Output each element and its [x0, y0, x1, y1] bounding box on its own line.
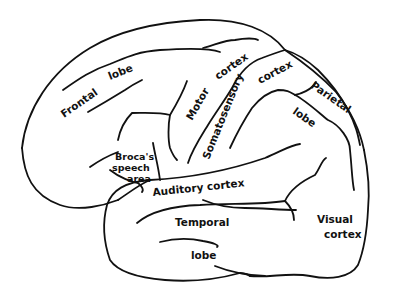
label-visual-cortex-1: Visual [317, 213, 353, 225]
postcentral-sulcus [230, 90, 295, 148]
label-temporal-lobe-1: Temporal [175, 216, 229, 228]
label-temporal-lobe-2: lobe [191, 249, 216, 261]
brain-diagram: Frontal lobe Motor cortex Somatosensory … [0, 0, 406, 297]
motor-cortex-top [203, 39, 258, 49]
sts-branch-upper [285, 158, 326, 201]
temporal-sulcus-3 [215, 266, 265, 276]
label-motor-cortex-1: Motor [183, 85, 211, 122]
label-brocas-area-2: speech [112, 162, 150, 173]
frontal-lobe-lower-edge [22, 148, 118, 208]
label-somatosensory-cortex-1: Somatosensory [200, 71, 245, 160]
label-frontal-lobe-1: Frontal [58, 86, 99, 120]
temporal-sulcus-2 [160, 239, 218, 247]
inferior-frontal-sulcus [118, 113, 170, 140]
precentral-sulcus [169, 81, 188, 160]
label-somatosensory-cortex-2: cortex [255, 57, 294, 85]
frontal-sulcus-upper [63, 49, 220, 90]
label-brocas-area-3: area [127, 173, 151, 184]
label-brocas-area-1: Broca's [115, 151, 154, 162]
label-visual-cortex-2: cortex [324, 228, 362, 240]
